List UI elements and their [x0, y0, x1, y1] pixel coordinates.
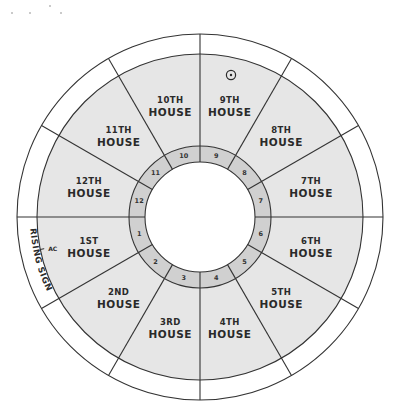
ring-number-12: 12	[135, 197, 144, 205]
house-label-ordinal: 3RD	[160, 317, 181, 327]
ring-number-10: 10	[179, 152, 189, 160]
house-label-word: HOUSE	[67, 247, 110, 259]
house-label-ordinal: 12TH	[76, 176, 102, 186]
house-label-ordinal: 2ND	[108, 287, 129, 297]
house-label-word: HOUSE	[148, 106, 191, 118]
house-label-word: HOUSE	[208, 106, 251, 118]
ring-number-6: 6	[259, 230, 264, 238]
house-label-word: HOUSE	[97, 298, 140, 310]
house-label-ordinal: 1ST	[79, 236, 98, 246]
house-label-ordinal: 10TH	[157, 95, 183, 105]
house-label-word: HOUSE	[97, 136, 140, 148]
ring-number-3: 3	[181, 274, 186, 282]
ascendant-label: AC	[48, 245, 58, 252]
ring-number-5: 5	[242, 258, 247, 266]
house-label-ordinal: 6TH	[301, 236, 321, 246]
house-label-word: HOUSE	[289, 187, 332, 199]
house-label-word: HOUSE	[260, 136, 303, 148]
ring-number-4: 4	[214, 274, 219, 282]
house-label-ordinal: 9TH	[220, 95, 240, 105]
house-label-word: HOUSE	[289, 247, 332, 259]
house-label-ordinal: 11TH	[106, 125, 132, 135]
ring-number-9: 9	[214, 152, 219, 160]
ring-number-11: 11	[151, 169, 161, 177]
house-label-word: HOUSE	[148, 328, 191, 340]
ring-number-1: 1	[137, 230, 142, 238]
house-label-word: HOUSE	[208, 328, 251, 340]
ring-number-7: 7	[259, 197, 264, 205]
house-label-word: HOUSE	[260, 298, 303, 310]
sun-icon-dot	[230, 74, 232, 76]
house-label-ordinal: 4TH	[220, 317, 240, 327]
house-label-word: HOUSE	[67, 187, 110, 199]
house-label-ordinal: 8TH	[271, 125, 291, 135]
ring-number-2: 2	[153, 258, 158, 266]
house-wheel-diagram: 123456789101112 1STHOUSE2NDHOUSE3RDHOUSE…	[0, 0, 401, 419]
center-circle	[145, 162, 255, 272]
house-label-ordinal: 7TH	[301, 176, 321, 186]
ring-number-8: 8	[242, 169, 247, 177]
house-label-ordinal: 5TH	[271, 287, 291, 297]
